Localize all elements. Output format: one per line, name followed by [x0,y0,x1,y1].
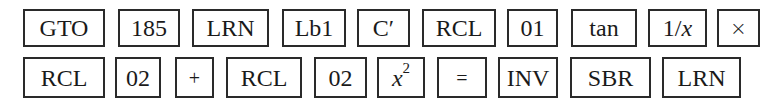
key-sbr: SBR [570,57,651,98]
key-label-var: x [682,16,693,40]
key-label: 185 [131,16,167,40]
plus-icon: + [189,68,200,88]
key-gto: GTO [23,9,105,47]
key-plus: + [175,57,214,98]
key-label: C′ [373,16,394,40]
key-rcl: RCL [23,57,105,98]
key-label: 01 [521,16,545,40]
key-01: 01 [507,9,558,47]
key-label: RCL [436,16,483,40]
key-multiply: × [717,9,760,47]
key-label-var: x [392,66,403,90]
multiply-icon: × [730,18,747,38]
key-c-prime: C′ [357,9,410,47]
key-label: tan [589,16,618,40]
key-label: Lb1 [295,16,334,40]
key-label: LRN [678,66,726,90]
key-02: 02 [314,57,367,98]
key-label: LRN [207,16,255,40]
equals-icon: = [456,68,467,88]
key-label: RCL [241,66,288,90]
key-tan: tan [571,9,637,47]
key-inv: INV [498,57,558,98]
key-label: 02 [329,66,353,90]
key-x-squared: x2 [377,57,425,98]
key-185: 185 [118,9,180,47]
key-lrn: LRN [192,9,269,47]
key-label-prefix: 1/ [663,16,682,40]
key-lrn: LRN [662,57,741,98]
key-rcl: RCL [226,57,302,98]
key-lbl: Lb1 [282,9,346,47]
key-rcl: RCL [422,9,496,47]
key-label-sup: 2 [403,61,411,76]
key-label: INV [507,66,550,90]
key-label: RCL [41,66,88,90]
key-equals: = [437,57,487,98]
key-label: GTO [40,16,89,40]
key-02: 02 [115,57,161,98]
key-label: SBR [588,66,633,90]
key-reciprocal: 1/x [648,9,707,47]
key-label: 02 [126,66,150,90]
